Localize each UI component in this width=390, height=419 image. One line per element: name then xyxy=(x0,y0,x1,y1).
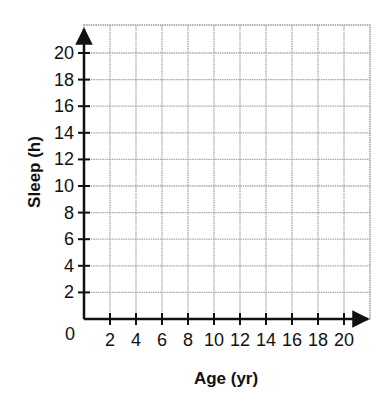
axes xyxy=(84,29,368,319)
x-tick-label: 2 xyxy=(105,330,115,350)
y-tick-label: 8 xyxy=(64,203,74,223)
x-tick-label: 6 xyxy=(157,330,167,350)
grid-lines xyxy=(84,25,370,319)
x-tick-label: 12 xyxy=(230,330,250,350)
y-tick-label: 14 xyxy=(54,123,74,143)
y-tick-label: 4 xyxy=(64,256,74,276)
x-tick-label: 14 xyxy=(256,330,276,350)
y-tick-label: 20 xyxy=(54,43,74,63)
y-tick-label: 12 xyxy=(54,149,74,169)
y-tick-label: 16 xyxy=(54,96,74,116)
x-tick-label: 16 xyxy=(282,330,302,350)
origin-label: 0 xyxy=(65,324,75,344)
y-tick-label: 18 xyxy=(54,70,74,90)
x-axis-title: Age (yr) xyxy=(194,369,258,388)
tick-labels: 24681012141618202468101214161820 xyxy=(54,43,354,350)
grid-border xyxy=(84,25,370,319)
x-tick-label: 8 xyxy=(183,330,193,350)
tick-marks xyxy=(78,53,344,325)
y-axis-title: Sleep (h) xyxy=(25,136,44,208)
x-tick-label: 4 xyxy=(131,330,141,350)
x-tick-label: 18 xyxy=(308,330,328,350)
y-tick-label: 2 xyxy=(64,282,74,302)
y-tick-label: 6 xyxy=(64,229,74,249)
coordinate-grid-chart: 24681012141618202468101214161820 0 Age (… xyxy=(0,0,390,419)
y-tick-label: 10 xyxy=(54,176,74,196)
x-tick-label: 10 xyxy=(204,330,224,350)
x-tick-label: 20 xyxy=(334,330,354,350)
